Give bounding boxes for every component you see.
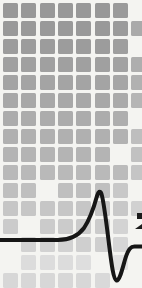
neural-signal-artwork — [0, 0, 142, 288]
spike-waveform-path — [0, 192, 142, 281]
action-potential-trace — [0, 0, 142, 288]
fragment-top-mark — [137, 213, 142, 219]
